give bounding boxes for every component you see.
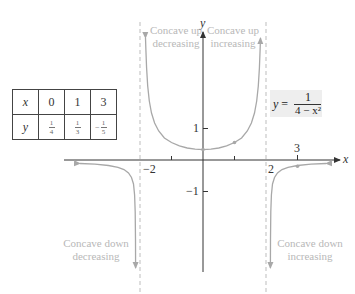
y-tick-label-1: 1 — [193, 121, 199, 136]
table-cell-y: 1 4 — [39, 115, 65, 140]
equation-lhs: y = — [273, 97, 288, 112]
fraction-numerator: 1 — [65, 119, 90, 127]
x-tick-label-minus2: −2 — [143, 162, 156, 177]
label-line: decreasing — [72, 250, 119, 262]
table-header-x: x — [13, 90, 39, 115]
label-line: Concave up — [150, 24, 202, 36]
label-line: increasing — [210, 37, 255, 49]
x-axis-label: x — [343, 152, 348, 167]
table-cell-x: 3 — [91, 90, 117, 115]
table-row-y: y 1 4 1 3 − 1 5 — [13, 115, 117, 140]
fraction-numerator: 1 — [39, 119, 64, 127]
equation-denominator: 4 − x² — [293, 104, 323, 116]
table-cell-y: − 1 5 — [91, 115, 117, 140]
label-line: increasing — [287, 250, 332, 262]
value-table: x 0 1 3 y 1 4 1 3 − 1 5 — [12, 89, 117, 140]
table-cell-x: 1 — [65, 90, 91, 115]
label-line: Concave up — [207, 24, 259, 36]
fraction-denominator: 4 — [39, 128, 64, 136]
label-concave-down-decreasing: Concave down decreasing — [60, 237, 132, 263]
equation-numerator: 1 — [295, 90, 321, 105]
equation-label: y = 1 4 − x² — [270, 90, 322, 117]
label-concave-up-increasing: Concave up increasing — [205, 24, 261, 50]
equation-equals: = — [278, 97, 288, 111]
label-concave-down-increasing: Concave down increasing — [274, 237, 346, 263]
point-0-quarter — [201, 148, 205, 152]
table-header-y: y — [13, 115, 39, 140]
x-tick-label-2: 2 — [268, 162, 274, 177]
table-row-x: x 0 1 3 — [13, 90, 117, 115]
point-3-neg-fifth — [296, 165, 300, 169]
label-line: decreasing — [152, 37, 199, 49]
x-tick-label-3: 3 — [294, 141, 300, 156]
table-cell-y: 1 3 — [65, 115, 91, 140]
table-cell-x: 0 — [39, 90, 65, 115]
label-concave-up-decreasing: Concave up decreasing — [148, 24, 204, 50]
label-line: Concave down — [63, 237, 129, 249]
point-1-third — [233, 141, 237, 145]
graph-figure: y x −2 2 3 1 −1 Concave up decreasing Co… — [0, 0, 355, 294]
label-line: Concave down — [277, 237, 343, 249]
fraction-denominator: 3 — [65, 128, 90, 136]
y-tick-label-minus1: −1 — [186, 184, 199, 199]
minus-sign: − — [95, 124, 100, 132]
